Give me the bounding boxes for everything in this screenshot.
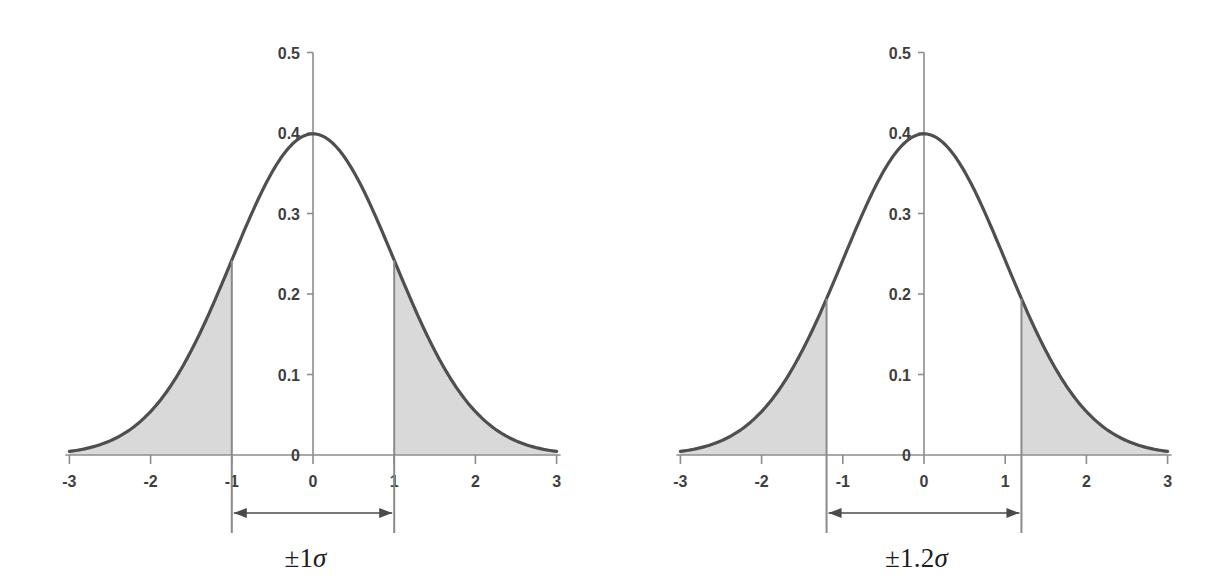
x-tick-label-4: 1 (1001, 473, 1010, 490)
shaded-region-right-tail (394, 260, 556, 455)
annotation-label-right: ±1.2σ (611, 543, 1222, 574)
y-tick-label-1: 0.1 (889, 367, 911, 384)
annotation-plus-minus-left: ± (284, 543, 299, 573)
x-tick-label-1: -2 (143, 473, 157, 490)
x-tick-label-5: 2 (471, 473, 480, 490)
sigma-range-arrowhead-right (379, 508, 392, 518)
x-tick-label-6: 3 (1163, 473, 1172, 490)
y-tick-label-0: 0 (902, 447, 911, 464)
annotation-plus-minus-right: ± (885, 543, 900, 573)
sigma-range-arrowhead-left (829, 508, 842, 518)
y-tick-label-1: 0.1 (278, 367, 300, 384)
annotation-label-left: ±1σ (0, 543, 611, 574)
sigma-range-arrowhead-left (234, 508, 247, 518)
y-tick-label-3: 0.3 (278, 206, 300, 223)
annotation-sigma-right: σ (934, 543, 948, 573)
shaded-region-left-tail (69, 260, 231, 455)
y-tick-label-5: 0.5 (278, 45, 300, 62)
y-tick-label-3: 0.3 (889, 206, 911, 223)
left-chart-svg: -3-2-1012300.10.20.30.40.5 (0, 0, 611, 585)
shaded-region-right-tail (1021, 299, 1167, 455)
y-tick-label-2: 0.2 (278, 286, 300, 303)
chart-panel-right: -3-2-1012300.10.20.30.40.5 ±1.2σ (611, 0, 1222, 585)
shaded-region-left-tail (680, 299, 826, 455)
chart-panel-left: -3-2-1012300.10.20.30.40.5 ±1σ (0, 0, 611, 585)
right-chart-svg: -3-2-1012300.10.20.30.40.5 (611, 0, 1223, 585)
sigma-range-arrowhead-right (1006, 508, 1019, 518)
annotation-sigma-left: σ (313, 543, 327, 573)
x-tick-label-1: -2 (754, 473, 768, 490)
x-tick-label-3: 0 (309, 473, 318, 490)
annotation-number-left: 1 (299, 543, 313, 573)
x-tick-label-2: -1 (836, 473, 850, 490)
y-tick-label-0: 0 (291, 447, 300, 464)
normal-distribution-figure: -3-2-1012300.10.20.30.40.5 ±1σ -3-2-1012… (0, 0, 1223, 585)
x-tick-label-3: 0 (920, 473, 929, 490)
x-tick-label-0: -3 (673, 473, 687, 490)
annotation-number-right: 1.2 (900, 543, 934, 573)
x-tick-label-5: 2 (1082, 473, 1091, 490)
y-tick-label-5: 0.5 (889, 45, 911, 62)
x-tick-label-0: -3 (62, 473, 76, 490)
y-tick-label-2: 0.2 (889, 286, 911, 303)
x-tick-label-6: 3 (552, 473, 561, 490)
